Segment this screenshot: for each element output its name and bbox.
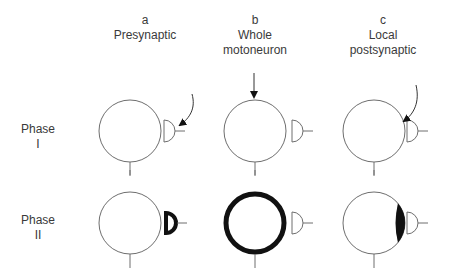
synaptic-terminal-active <box>166 213 176 233</box>
motoneuron-soma <box>224 100 286 162</box>
synaptic-terminal <box>407 212 418 234</box>
cell-b-phase-2 <box>226 170 313 268</box>
motoneuron-soma <box>99 100 161 162</box>
arrow-icon <box>404 85 417 121</box>
motoneuron-soma-active <box>226 194 284 252</box>
postsynaptic-patch-fill <box>396 204 405 243</box>
cell-a-phase-2 <box>99 170 187 268</box>
neuron-diagram <box>0 0 450 280</box>
synaptic-terminal <box>164 120 175 142</box>
synaptic-terminal <box>292 212 303 234</box>
cell-b-phase-1 <box>224 73 313 176</box>
cell-c-phase-1 <box>343 85 428 176</box>
cell-a-phase-1 <box>99 94 193 176</box>
motoneuron-soma <box>343 100 405 162</box>
synaptic-terminal <box>292 120 303 142</box>
motoneuron-soma <box>99 192 161 254</box>
arrow-icon <box>180 94 193 125</box>
cell-c-phase-2 <box>343 170 428 268</box>
synaptic-terminal <box>407 120 418 142</box>
